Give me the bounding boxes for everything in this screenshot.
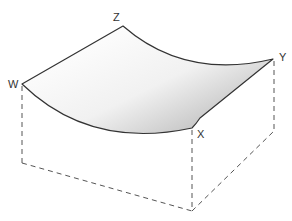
label-x: X (197, 128, 205, 140)
edge-base-right (192, 131, 274, 211)
edge-base-left (22, 163, 192, 211)
label-z: Z (113, 11, 120, 23)
label-w: W (8, 78, 19, 90)
surface-diagram: W Z Y X (0, 0, 292, 221)
label-y: Y (279, 51, 287, 63)
curved-surface (22, 26, 273, 134)
